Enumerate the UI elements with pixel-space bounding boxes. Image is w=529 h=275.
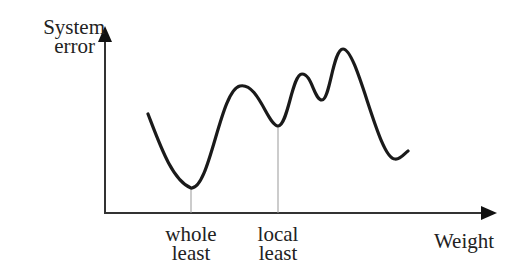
local-least-line2: least (243, 244, 313, 263)
x-axis-label: Weight (428, 232, 500, 251)
y-axis-label: System error (30, 18, 105, 56)
y-axis-label-line2: error (30, 37, 105, 56)
error-surface-diagram: System error whole least local least Wei… (0, 0, 529, 275)
whole-least-line2: least (152, 244, 230, 263)
whole-least-label: whole least (152, 225, 230, 263)
local-least-label: local least (243, 225, 313, 263)
x-axis-arrow-icon (481, 206, 497, 220)
